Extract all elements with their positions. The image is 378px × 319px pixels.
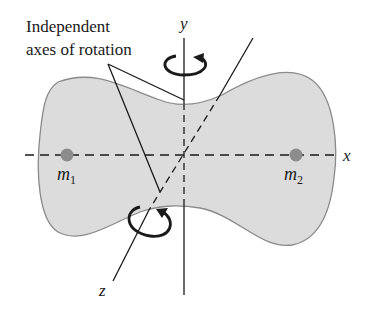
y-rotation-arrow-icon	[165, 53, 206, 75]
mass-1-dot	[61, 149, 74, 162]
z-axis-label: z	[98, 281, 106, 300]
annotation-line-1: Independent	[26, 17, 110, 36]
y-axis-label: y	[178, 14, 188, 33]
x-axis-label: x	[342, 146, 351, 165]
rigid-body-rotation-diagram: Independent axes of rotation y x z m1 m2	[0, 0, 378, 319]
mass-2-dot	[290, 149, 303, 162]
annotation-line-2: axes of rotation	[26, 40, 132, 59]
